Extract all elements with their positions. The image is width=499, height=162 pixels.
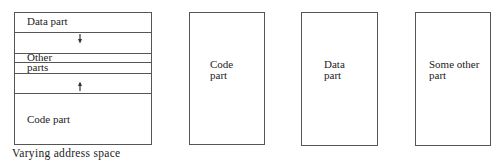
segment-label-code-part: Code part bbox=[27, 114, 70, 125]
data-part-label-line2: part bbox=[324, 70, 341, 81]
arrow-up-icon bbox=[76, 81, 84, 91]
segment-label-parts: parts bbox=[27, 62, 48, 73]
segment-label-data-part: Data part bbox=[27, 16, 68, 27]
segment-divider bbox=[14, 32, 152, 33]
arrow-down-icon bbox=[76, 34, 84, 44]
some-other-part-label-line2: part bbox=[429, 70, 446, 81]
code-part-label-line2: part bbox=[210, 70, 227, 81]
some-other-part-box bbox=[415, 12, 491, 146]
segment-divider bbox=[14, 93, 152, 94]
segment-divider bbox=[14, 73, 152, 74]
varying-address-space-caption: Varying address space bbox=[12, 147, 121, 159]
